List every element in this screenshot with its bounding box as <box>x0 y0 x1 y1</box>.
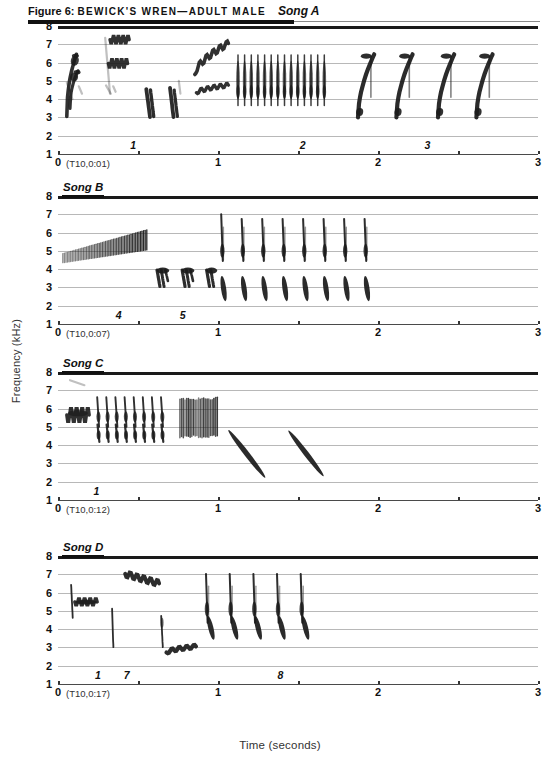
x-tickmark-2 <box>378 497 380 500</box>
x-tickmark-3 <box>538 681 540 684</box>
timecode: (T10,0:12) <box>66 504 110 515</box>
y-tick-4: 4 <box>26 440 52 451</box>
x-tickmark-0 <box>58 681 60 684</box>
phrase-marker-1: 1 <box>130 140 136 151</box>
phrase-marker-5: 5 <box>180 310 186 321</box>
x-tick-0: 0 <box>55 327 61 338</box>
x-tickmark-1 <box>218 681 220 684</box>
y-tick-1: 1 <box>26 149 52 160</box>
timecode: (T10,0:01) <box>66 158 110 169</box>
gridline-4khz <box>58 445 538 446</box>
y-tick-4: 4 <box>26 94 52 105</box>
x-tick-3: 3 <box>535 157 541 168</box>
y-tick-8: 8 <box>26 551 52 562</box>
figure-caption: Figure 6: BEWICK'S WREN—ADULT MALE Song … <box>28 4 540 24</box>
gridline-7khz <box>58 44 538 45</box>
x-tickmark-3 <box>538 321 540 324</box>
y-tick-7: 7 <box>26 39 52 50</box>
y-tick-1: 1 <box>26 679 52 690</box>
x-tickmark-2.5 <box>458 321 460 324</box>
x-tickmark-2 <box>378 151 380 154</box>
gridline-2khz <box>58 666 538 667</box>
y-axis-label: Frequency (kHz) <box>10 301 22 421</box>
y-tick-4: 4 <box>26 624 52 635</box>
gridline-3khz <box>58 287 538 288</box>
song-label-underline <box>62 371 104 374</box>
caption-song-tag: Song A <box>278 4 320 18</box>
y-tick-8: 8 <box>26 21 52 32</box>
gridline-7khz <box>58 390 538 391</box>
y-tick-5: 5 <box>26 76 52 87</box>
gridline-6khz <box>58 63 538 64</box>
y-tick-6: 6 <box>26 58 52 69</box>
y-tick-1: 1 <box>26 495 52 506</box>
x-tickmark-3 <box>538 151 540 154</box>
y-tick-2: 2 <box>26 301 52 312</box>
phrase-marker-1: 1 <box>95 670 101 681</box>
y-tick-6: 6 <box>26 588 52 599</box>
x-axis-label: Time (seconds) <box>0 739 560 751</box>
phrase-marker-4: 4 <box>116 310 122 321</box>
gridline-7khz <box>58 214 538 215</box>
gridline-6khz <box>58 593 538 594</box>
gridline-5khz <box>58 611 538 612</box>
gridline-6khz <box>58 409 538 410</box>
phrase-marker-3: 3 <box>425 140 431 151</box>
gridline-2khz <box>58 482 538 483</box>
x-tickmark-3 <box>538 497 540 500</box>
gridline-1khz <box>58 324 538 325</box>
song-label-underline <box>62 195 104 198</box>
y-tick-3: 3 <box>26 282 52 293</box>
x-tickmark-2.5 <box>458 151 460 154</box>
x-tick-3: 3 <box>535 503 541 514</box>
x-tickmark-1 <box>218 497 220 500</box>
x-tickmark-0 <box>58 497 60 500</box>
x-tick-2: 2 <box>375 503 381 514</box>
gridline-2khz <box>58 136 538 137</box>
song-label-d: Song D <box>63 542 103 554</box>
x-tickmark-2.5 <box>458 681 460 684</box>
gridline-1khz <box>58 684 538 685</box>
x-tickmark-0.5 <box>138 151 140 154</box>
y-tick-6: 6 <box>26 228 52 239</box>
gridline-4khz <box>58 269 538 270</box>
x-tickmark-0.5 <box>138 681 140 684</box>
x-tickmark-2.5 <box>458 497 460 500</box>
timecode: (T10,0:07) <box>66 328 110 339</box>
caption-rule-thick <box>28 20 294 24</box>
gridline-5khz <box>58 251 538 252</box>
phrase-marker-8: 8 <box>277 670 283 681</box>
x-tick-1: 1 <box>215 503 221 514</box>
y-tick-6: 6 <box>26 404 52 415</box>
spectrogram-traces <box>0 0 560 767</box>
spectrogram-traces <box>0 0 560 767</box>
phrase-marker-7: 7 <box>124 670 130 681</box>
gridline-4khz <box>58 629 538 630</box>
x-tick-3: 3 <box>535 327 541 338</box>
y-tick-5: 5 <box>26 422 52 433</box>
x-tickmark-1.5 <box>298 151 300 154</box>
species-name: BEWICK'S WREN—ADULT MALE <box>78 6 266 17</box>
y-tick-2: 2 <box>26 131 52 142</box>
y-tick-7: 7 <box>26 209 52 220</box>
y-tick-4: 4 <box>26 264 52 275</box>
figure-number: Figure 6: <box>28 5 74 17</box>
gridline-2khz <box>58 306 538 307</box>
x-tick-0: 0 <box>55 687 61 698</box>
x-tick-0: 0 <box>55 157 61 168</box>
song-label-underline <box>62 555 104 558</box>
gridline-5khz <box>58 427 538 428</box>
x-tickmark-1 <box>218 321 220 324</box>
song-label-b: Song B <box>63 182 103 194</box>
y-tick-3: 3 <box>26 458 52 469</box>
gridline-8khz <box>58 26 538 29</box>
x-tickmark-2 <box>378 681 380 684</box>
y-tick-3: 3 <box>26 642 52 653</box>
y-tick-5: 5 <box>26 246 52 257</box>
spectrogram-traces <box>0 0 560 767</box>
x-tick-1: 1 <box>215 327 221 338</box>
gridline-4khz <box>58 99 538 100</box>
x-tickmark-0.5 <box>138 497 140 500</box>
x-tick-2: 2 <box>375 327 381 338</box>
gridline-5khz <box>58 81 538 82</box>
